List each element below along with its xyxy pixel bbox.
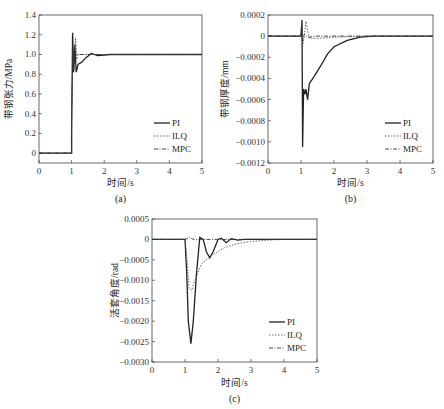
y-tick-label: 1.4: [25, 10, 37, 20]
x-tick-label: 3: [365, 166, 370, 176]
x-axis-label: 时间/s: [221, 377, 248, 388]
y-tick-label: −0.0025: [119, 337, 149, 347]
y-axis-label: 带钢厚度/mm: [219, 60, 230, 118]
x-tick-label: 1: [183, 365, 188, 375]
legend-label: MPC: [172, 144, 191, 154]
x-axis-label: 时间/s: [337, 177, 364, 188]
y-tick-label: −0.0008: [235, 116, 265, 126]
x-tick-label: 1: [69, 166, 74, 176]
y-tick-label: 0: [32, 148, 37, 158]
y-tick-label: 0.6: [25, 89, 37, 99]
y-tick-label: 0.8: [25, 69, 37, 79]
x-tick-label: 1: [299, 166, 304, 176]
x-tick-label: 0: [266, 166, 271, 176]
y-tick-label: −0.0002: [235, 52, 265, 62]
panel-caption: (a): [115, 193, 126, 205]
x-tick-label: 3: [135, 166, 140, 176]
y-tick-label: −0.0006: [235, 95, 265, 105]
y-tick-label: −0.0020: [119, 316, 149, 326]
x-tick-label: 3: [249, 365, 254, 375]
x-tick-label: 0: [37, 166, 42, 176]
legend-label: PI: [172, 118, 180, 128]
panel-caption: (c): [229, 393, 240, 405]
y-tick-label: 1.0: [25, 49, 37, 59]
y-tick-label: −0.0005: [119, 255, 149, 265]
x-tick-label: 5: [315, 365, 320, 375]
y-axis-label: 活套角度/rad: [109, 263, 120, 318]
legend-label: PI: [287, 317, 295, 327]
panel-caption: (b): [345, 193, 357, 205]
y-tick-label: −0.0010: [119, 275, 149, 285]
legend-label: ILQ: [172, 131, 187, 141]
axes-frame: [152, 219, 317, 362]
y-tick-label: −0.0015: [119, 296, 149, 306]
legend-label: ILQ: [287, 330, 302, 340]
x-tick-label: 2: [332, 166, 337, 176]
y-tick-label: −0.0004: [235, 73, 265, 83]
x-tick-label: 0: [150, 365, 155, 375]
y-tick-label: 0: [145, 234, 150, 244]
y-tick-label: −0.0030: [119, 357, 149, 367]
x-tick-label: 2: [102, 166, 107, 176]
chart-panel-b: 012345−0.0012−0.0010−0.0008−0.0006−0.000…: [219, 10, 436, 205]
x-tick-label: 5: [431, 166, 436, 176]
series-pi: [152, 237, 317, 343]
chart-panel-c: 012345−0.0030−0.0025−0.0020−0.0015−0.001…: [109, 214, 320, 405]
chart-panel-a: 01234500.20.40.60.81.01.21.4PIILQMPC时间/s…: [3, 10, 205, 205]
y-tick-label: 0.4: [25, 109, 37, 119]
x-tick-label: 4: [398, 166, 403, 176]
y-tick-label: 1.2: [25, 30, 36, 40]
legend-label: MPC: [403, 144, 422, 154]
series-pi: [268, 20, 433, 147]
x-tick-label: 4: [282, 365, 287, 375]
y-tick-label: 0.0002: [240, 10, 265, 20]
legend-label: PI: [403, 118, 411, 128]
x-tick-label: 5: [200, 166, 205, 176]
x-axis-label: 时间/s: [107, 177, 134, 188]
y-tick-label: −0.0010: [235, 137, 265, 147]
legend-label: MPC: [287, 343, 306, 353]
series-ilq: [152, 239, 317, 290]
y-tick-label: 0.0005: [124, 214, 149, 224]
x-tick-label: 4: [167, 166, 172, 176]
x-tick-label: 2: [216, 365, 221, 375]
legend-label: ILQ: [403, 131, 418, 141]
y-tick-label: 0.2: [25, 128, 36, 138]
y-axis-label: 带钢张力/MPa: [3, 58, 14, 119]
y-tick-label: 0: [261, 31, 266, 41]
y-tick-label: −0.0012: [235, 158, 265, 168]
series-mpc: [152, 237, 317, 240]
figure: 01234500.20.40.60.81.01.21.4PIILQMPC时间/s…: [0, 0, 444, 409]
series-ilq: [268, 20, 433, 46]
